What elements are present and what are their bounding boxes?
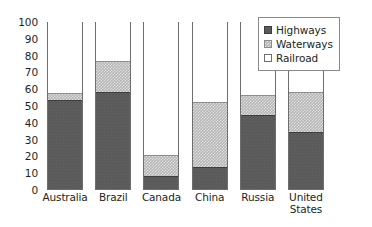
bar-stack[interactable] [95,22,131,190]
y-axis-tick-label: 70 [2,67,38,77]
railroad-swatch-icon [264,54,272,62]
legend-item[interactable]: Railroad [264,51,333,65]
y-axis-tick-label: 90 [2,34,38,44]
y-axis-tick-label: 30 [2,135,38,145]
highways-swatch-icon [264,26,272,34]
y-axis-tick-label: 20 [2,151,38,161]
y-axis-tick-label: 10 [2,168,38,178]
y-axis-tick-label: 40 [2,118,38,128]
y-axis-tick-label: 60 [2,84,38,94]
bar-segment-railroad[interactable] [48,21,82,93]
y-axis-tick-label: 100 [2,17,38,27]
chart-legend: HighwaysWaterwaysRailroad [258,17,340,71]
bar-stack[interactable] [192,22,228,190]
y-axis-tick-label: 0 [2,185,38,195]
legend-item[interactable]: Highways [264,23,333,37]
bar-stack[interactable] [47,22,83,190]
y-axis: 1009080706050403020100 [0,0,38,227]
bar-segment-highways[interactable] [96,92,130,189]
bar-segment-railroad[interactable] [193,21,227,102]
legend-item-label: Waterways [276,39,333,50]
x-axis: AustraliaBrazilCanadaChinaRussiaUnited S… [41,192,330,227]
bar-segment-waterways[interactable] [241,95,275,115]
legend-item-label: Railroad [276,53,318,64]
bar-segment-waterways[interactable] [144,155,178,175]
bar-segment-waterways[interactable] [48,93,82,100]
bar-segment-railroad[interactable] [144,21,178,155]
legend-item-label: Highways [276,25,326,36]
bar-segment-highways[interactable] [289,132,323,189]
bar-segment-highways[interactable] [48,100,82,189]
bar-segment-waterways[interactable] [96,61,130,91]
bar-segment-highways[interactable] [241,115,275,189]
bar-segment-waterways[interactable] [289,92,323,132]
y-axis-tick-label: 50 [2,101,38,111]
x-axis-tick-label: United States [277,192,335,215]
bar-segment-highways[interactable] [193,167,227,189]
bar-segment-highways[interactable] [144,176,178,189]
bar-segment-railroad[interactable] [96,21,130,61]
legend-item[interactable]: Waterways [264,37,333,51]
waterways-swatch-icon [264,40,272,48]
stacked-bar-chart: 1009080706050403020100 AustraliaBrazilCa… [0,0,372,227]
bar-segment-waterways[interactable] [193,102,227,168]
y-axis-tick-label: 80 [2,51,38,61]
bar-stack[interactable] [143,22,179,190]
